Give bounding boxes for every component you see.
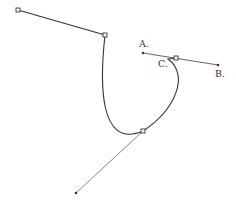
anchor-top-left[interactable] — [16, 8, 20, 12]
curve-segment-1 — [102, 35, 143, 134]
tangent-handle-lower — [76, 131, 143, 193]
label-a: A. — [138, 38, 149, 49]
label-c: C. — [158, 58, 168, 69]
anchor-lower[interactable] — [141, 129, 145, 133]
bezier-diagram: A. B. C. — [0, 0, 236, 208]
label-b: B. — [215, 68, 225, 79]
point-a-dot[interactable] — [142, 52, 145, 55]
anchor-top-right[interactable] — [103, 33, 107, 37]
segment-top-line — [18, 10, 105, 35]
point-b-dot[interactable] — [217, 64, 220, 67]
anchor-c[interactable] — [174, 56, 178, 60]
handle-bottom-left-dot[interactable] — [75, 192, 78, 195]
tangent-line-ab — [143, 53, 218, 65]
